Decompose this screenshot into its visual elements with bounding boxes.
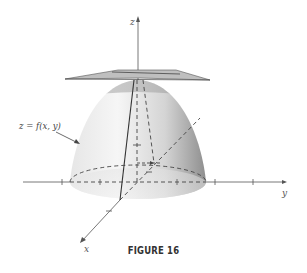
tangent-plane (65, 70, 210, 80)
figure-16-paraboloid: y x z z = f(x, y) (0, 0, 307, 273)
z-axis-label: z (129, 17, 135, 27)
paraboloid-surface (60, 70, 216, 204)
figure-caption: FIGURE 16 (23, 245, 284, 256)
surface-label: z = f(x, y) (18, 121, 61, 131)
surface-label-arrow (56, 132, 80, 144)
y-axis-label: y (281, 188, 288, 198)
